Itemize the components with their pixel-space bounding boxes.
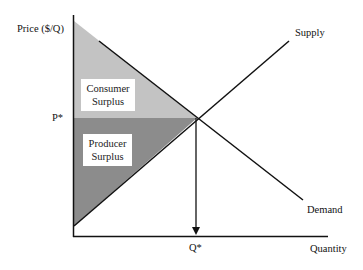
producer-surplus-label: Producer Surplus <box>83 134 132 166</box>
x-axis-label: Quantity <box>310 243 347 254</box>
consumer-surplus-label: Consumer Surplus <box>81 79 135 111</box>
supply-label: Supply <box>295 27 325 38</box>
demand-label: Demand <box>307 204 343 215</box>
arrow-down-icon <box>192 227 200 235</box>
surplus-diagram <box>0 0 363 270</box>
equilibrium-price-label: P* <box>52 112 63 123</box>
equilibrium-quantity-label: Q* <box>189 242 202 253</box>
y-axis-label: Price ($/Q) <box>17 23 64 34</box>
